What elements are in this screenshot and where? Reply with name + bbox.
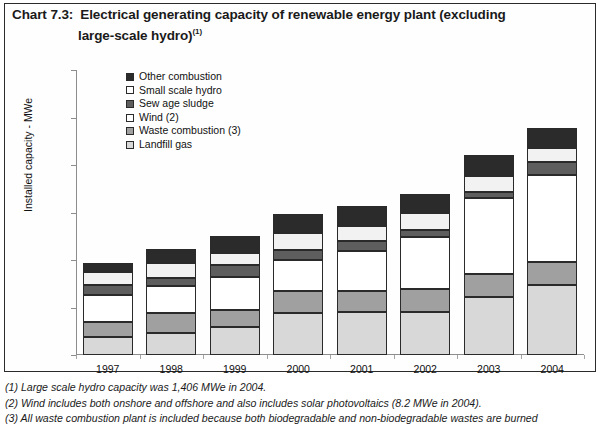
legend-item[interactable]: Small scale hydro (126, 84, 241, 98)
bar-segment-wind-2[interactable] (337, 251, 387, 291)
bar-segment-waste-combustion-3[interactable] (146, 313, 196, 333)
x-tick-label-1999: 1999 (223, 363, 246, 375)
bar-segment-small-scale-hydro[interactable] (83, 272, 133, 285)
chart-title: Chart 7.3:Electrical generating capacity… (12, 6, 578, 44)
legend-item[interactable]: Other combustion (126, 70, 241, 84)
legend-item[interactable]: Sew age sludge (126, 97, 241, 111)
x-tick-label-2003: 2003 (477, 363, 500, 375)
x-tick-label-2000: 2000 (287, 363, 310, 375)
x-tick-label-2002: 2002 (414, 363, 437, 375)
bar-segment-waste-combustion-3[interactable] (273, 291, 323, 313)
bar-segment-waste-combustion-3[interactable] (83, 322, 133, 337)
bar-2000[interactable] (273, 214, 323, 355)
y-tick (71, 260, 76, 261)
x-tick (394, 355, 395, 359)
bar-segment-small-scale-hydro[interactable] (273, 233, 323, 249)
x-tick-label-1998: 1998 (160, 363, 183, 375)
legend-swatch-icon (126, 114, 134, 122)
bar-segment-waste-combustion-3[interactable] (527, 262, 577, 285)
bar-1999[interactable] (210, 236, 260, 355)
bar-segment-sew-age-sludge[interactable] (464, 192, 514, 198)
x-tick (140, 355, 141, 359)
bar-segment-other-combustion[interactable] (273, 214, 323, 233)
legend-item-label: Landfill gas (139, 138, 192, 152)
bar-segment-sew-age-sludge[interactable] (146, 278, 196, 286)
bar-segment-wind-2[interactable] (83, 295, 133, 322)
bar-segment-wind-2[interactable] (210, 277, 260, 311)
bar-2002[interactable] (400, 194, 450, 356)
bar-segment-small-scale-hydro[interactable] (146, 263, 196, 278)
legend-item-label: Small scale hydro (139, 84, 222, 98)
bar-segment-sew-age-sludge[interactable] (400, 230, 450, 237)
legend-item[interactable]: Wind (2) (126, 111, 241, 125)
bar-2001[interactable] (337, 206, 387, 355)
bar-segment-sew-age-sludge[interactable] (273, 250, 323, 260)
bar-segment-waste-combustion-3[interactable] (210, 310, 260, 327)
bar-segment-other-combustion[interactable] (400, 194, 450, 214)
x-tick (521, 355, 522, 359)
bar-segment-landfill-gas[interactable] (400, 312, 450, 355)
chart-legend: Other combustionSmall scale hydroSew age… (126, 70, 241, 152)
bar-segment-landfill-gas[interactable] (527, 285, 577, 355)
bar-segment-other-combustion[interactable] (146, 249, 196, 263)
bar-segment-other-combustion[interactable] (464, 155, 514, 176)
bar-segment-small-scale-hydro[interactable] (400, 213, 450, 229)
bar-segment-waste-combustion-3[interactable] (464, 274, 514, 297)
y-tick (71, 118, 76, 119)
y-tick (71, 70, 76, 71)
bar-segment-other-combustion[interactable] (83, 263, 133, 272)
legend-item-label: Waste combustion (3) (139, 124, 241, 138)
footnote-1: (1) Large scale hydro capacity was 1,406… (5, 380, 597, 396)
bar-segment-wind-2[interactable] (527, 175, 577, 262)
bar-segment-wind-2[interactable] (400, 237, 450, 290)
bar-segment-landfill-gas[interactable] (146, 333, 196, 355)
bar-segment-waste-combustion-3[interactable] (400, 289, 450, 312)
x-tick (584, 355, 585, 359)
bar-segment-wind-2[interactable] (464, 198, 514, 274)
bar-segment-small-scale-hydro[interactable] (210, 253, 260, 265)
bar-2003[interactable] (464, 155, 514, 355)
x-tick-label-2001: 2001 (350, 363, 373, 375)
y-tick (71, 213, 76, 214)
y-tick (71, 165, 76, 166)
legend-item[interactable]: Landfill gas (126, 138, 241, 152)
bar-segment-other-combustion[interactable] (337, 206, 387, 226)
bar-segment-sew-age-sludge[interactable] (527, 162, 577, 175)
x-tick (267, 355, 268, 359)
chart-title-line2: large-scale hydro) (78, 28, 193, 43)
bar-segment-landfill-gas[interactable] (210, 327, 260, 355)
bar-segment-small-scale-hydro[interactable] (337, 226, 387, 241)
bar-segment-landfill-gas[interactable] (337, 312, 387, 355)
bar-segment-sew-age-sludge[interactable] (337, 241, 387, 251)
bar-segment-wind-2[interactable] (273, 260, 323, 292)
bar-segment-sew-age-sludge[interactable] (83, 285, 133, 295)
bar-segment-other-combustion[interactable] (210, 236, 260, 253)
legend-item-label: Other combustion (139, 70, 222, 84)
bar-2004[interactable] (527, 128, 577, 355)
bar-segment-other-combustion[interactable] (527, 128, 577, 148)
legend-swatch-icon (126, 73, 134, 81)
bar-segment-sew-age-sludge[interactable] (210, 265, 260, 277)
bar-1997[interactable] (83, 263, 133, 355)
y-axis-line (76, 70, 77, 355)
legend-item[interactable]: Waste combustion (3) (126, 124, 241, 138)
bar-segment-landfill-gas[interactable] (83, 337, 133, 355)
footnote-3: (3) All waste combustion plant is includ… (5, 411, 597, 427)
bar-1998[interactable] (146, 249, 196, 355)
legend-item-label: Sew age sludge (139, 97, 214, 111)
chart-footnotes: (1) Large scale hydro capacity was 1,406… (5, 380, 597, 427)
bar-segment-small-scale-hydro[interactable] (464, 176, 514, 192)
chart-title-line1: Electrical generating capacity of renewa… (80, 7, 505, 22)
bar-segment-waste-combustion-3[interactable] (337, 291, 387, 312)
x-tick-label-1997: 1997 (96, 363, 119, 375)
bar-segment-landfill-gas[interactable] (464, 297, 514, 355)
bar-segment-small-scale-hydro[interactable] (527, 148, 577, 162)
y-tick (71, 308, 76, 309)
legend-swatch-icon (126, 86, 134, 94)
bar-segment-landfill-gas[interactable] (273, 313, 323, 355)
x-tick (203, 355, 204, 359)
legend-swatch-icon (126, 100, 134, 108)
x-tick (457, 355, 458, 359)
bar-segment-wind-2[interactable] (146, 286, 196, 313)
legend-swatch-icon (126, 141, 134, 149)
